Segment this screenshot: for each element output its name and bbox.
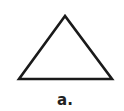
triangle-outline <box>19 16 112 79</box>
figure-caption: a. <box>0 92 124 109</box>
triangle-shape <box>0 0 124 90</box>
triangle-figure: a. <box>0 0 124 111</box>
